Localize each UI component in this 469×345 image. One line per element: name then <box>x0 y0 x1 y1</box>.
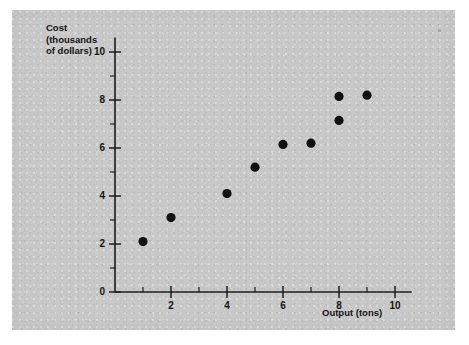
tick-labels-group: 0246810246810 <box>94 46 401 312</box>
x-tick-label: 4 <box>224 300 230 311</box>
data-point <box>250 163 259 172</box>
data-points-group <box>138 91 371 247</box>
data-point <box>222 189 231 198</box>
x-axis-label: Output (tons) <box>322 307 382 318</box>
data-point <box>334 116 343 125</box>
y-tick-label: 4 <box>99 190 105 201</box>
data-point <box>278 140 287 149</box>
x-tick-label: 6 <box>280 300 286 311</box>
data-point <box>166 213 175 222</box>
data-point <box>362 91 371 100</box>
y-tick-label: 8 <box>99 94 105 105</box>
x-tick-label: 10 <box>389 300 401 311</box>
y-tick-label: 2 <box>99 238 105 249</box>
data-point <box>306 139 315 148</box>
scatter-plot-figure: 0246810246810 Cost (thousands of dollars… <box>0 0 469 345</box>
axes-group <box>115 38 412 292</box>
tick-marks-group <box>109 52 395 298</box>
y-tick-label: 0 <box>99 286 105 297</box>
data-point <box>138 237 147 246</box>
data-point <box>334 92 343 101</box>
x-tick-label: 2 <box>168 300 174 311</box>
y-tick-label: 6 <box>99 142 105 153</box>
y-axis-label: Cost (thousands of dollars) <box>46 22 120 57</box>
